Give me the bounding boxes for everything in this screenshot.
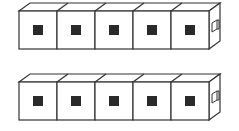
- center-square: [71, 25, 81, 35]
- center-square: [147, 25, 157, 35]
- center-square: [109, 25, 119, 35]
- center-square: [71, 96, 81, 106]
- top-face: [19, 74, 220, 82]
- center-square: [109, 96, 119, 106]
- center-square: [33, 25, 43, 35]
- center-square: [185, 96, 195, 106]
- row-1: [19, 3, 220, 49]
- cube-rows-diagram: [0, 0, 239, 131]
- center-square: [185, 25, 195, 35]
- cube: [19, 11, 57, 49]
- cube: [19, 82, 57, 120]
- center-square: [147, 96, 157, 106]
- top-face: [19, 3, 220, 11]
- center-square: [33, 96, 43, 106]
- row-2: [19, 74, 220, 120]
